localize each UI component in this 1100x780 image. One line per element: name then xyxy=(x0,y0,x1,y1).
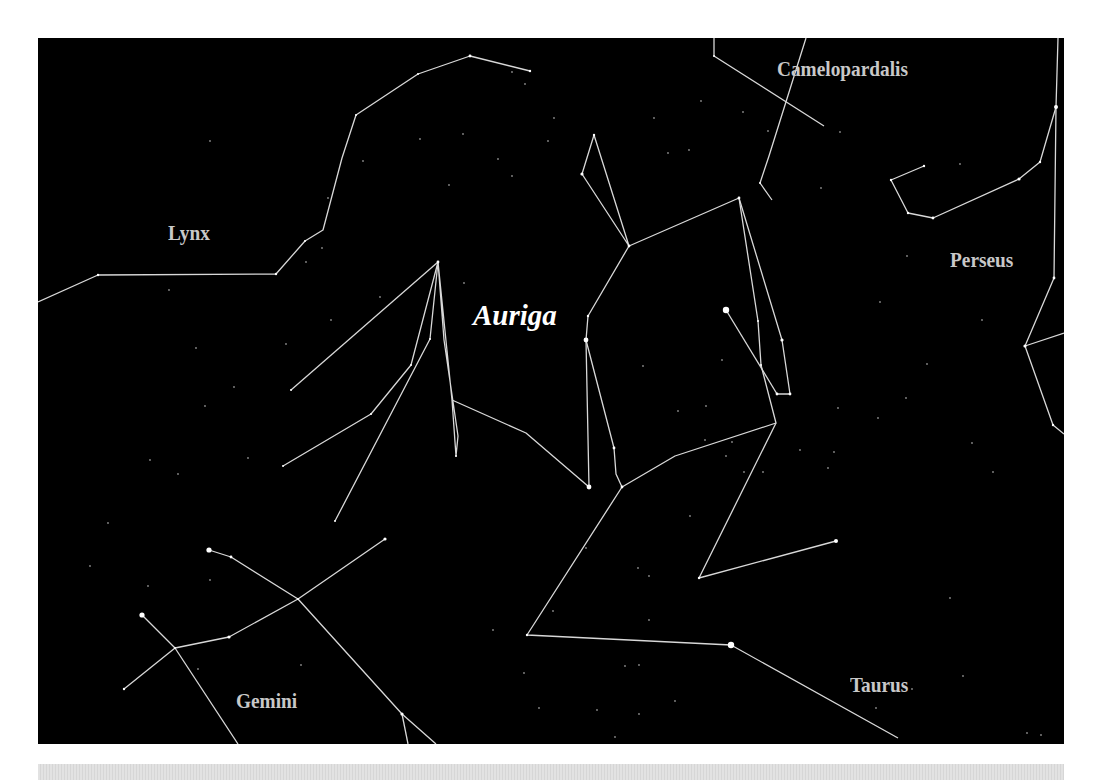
field-star xyxy=(877,417,879,419)
field-star xyxy=(204,405,206,407)
constellation-line xyxy=(291,262,438,390)
constellation-line xyxy=(175,648,238,744)
star xyxy=(437,261,440,264)
star xyxy=(628,245,631,248)
constellation-line xyxy=(38,56,530,302)
star xyxy=(417,73,419,75)
field-star xyxy=(233,386,235,388)
field-star xyxy=(731,441,733,443)
field-star xyxy=(1040,734,1042,736)
constellation-line xyxy=(891,38,1058,218)
field-star xyxy=(327,197,329,199)
star xyxy=(780,338,783,341)
field-star xyxy=(959,163,961,165)
star xyxy=(834,539,838,543)
star xyxy=(383,537,386,540)
field-star xyxy=(905,397,907,399)
star xyxy=(529,70,531,72)
star xyxy=(760,364,762,366)
star xyxy=(334,520,336,522)
field-star xyxy=(195,347,197,349)
star xyxy=(290,389,292,391)
field-star xyxy=(688,149,690,151)
field-star xyxy=(614,736,616,738)
star xyxy=(469,55,472,58)
star xyxy=(776,393,779,396)
field-star xyxy=(492,629,494,631)
field-star xyxy=(674,700,676,702)
star xyxy=(890,179,892,181)
star xyxy=(123,688,125,690)
star xyxy=(713,55,715,57)
constellation-line xyxy=(714,38,824,126)
constellation-line xyxy=(124,648,175,689)
constellation-line xyxy=(527,487,898,738)
constellation-line xyxy=(283,262,438,466)
field-star xyxy=(837,407,839,409)
star xyxy=(584,338,589,343)
field-star xyxy=(177,473,179,475)
field-star xyxy=(677,410,679,412)
star xyxy=(932,217,935,220)
bottom-divider-strip xyxy=(38,764,1064,780)
label-camelopardalis: Camelopardalis xyxy=(777,59,908,80)
field-star xyxy=(667,152,669,154)
field-star xyxy=(689,515,691,517)
star xyxy=(297,598,299,600)
star xyxy=(410,364,412,366)
star xyxy=(230,556,233,559)
star xyxy=(97,274,99,276)
constellation-line xyxy=(452,400,589,487)
star xyxy=(621,486,624,489)
star xyxy=(526,634,528,636)
constellation-line xyxy=(739,198,790,394)
star xyxy=(757,320,759,322)
field-star xyxy=(839,131,841,133)
field-star xyxy=(762,471,764,473)
star xyxy=(698,577,700,579)
star xyxy=(1053,277,1056,280)
field-star xyxy=(820,187,822,189)
star xyxy=(723,307,729,313)
field-star xyxy=(725,455,727,457)
star xyxy=(907,212,909,214)
field-star xyxy=(585,547,587,549)
field-star xyxy=(462,133,464,135)
field-star xyxy=(285,343,287,345)
field-star xyxy=(524,83,526,85)
field-star xyxy=(971,442,973,444)
constellation-map xyxy=(38,38,1064,744)
star xyxy=(1023,344,1026,347)
star xyxy=(174,647,176,649)
field-star xyxy=(637,567,639,569)
field-star xyxy=(638,713,640,715)
field-star xyxy=(209,579,211,581)
field-star xyxy=(300,664,302,666)
field-star xyxy=(926,363,928,365)
label-auriga: Auriga xyxy=(473,301,557,330)
star xyxy=(587,485,592,490)
star xyxy=(400,712,403,715)
star xyxy=(370,413,372,415)
field-star xyxy=(827,467,829,469)
field-star xyxy=(949,597,951,599)
constellation-line xyxy=(1025,107,1064,346)
star xyxy=(580,172,583,175)
field-star xyxy=(743,471,745,473)
field-star xyxy=(962,675,964,677)
star xyxy=(139,612,144,617)
constellation-line xyxy=(335,262,438,521)
field-star xyxy=(538,707,540,709)
field-star xyxy=(981,319,983,321)
star xyxy=(593,134,595,136)
field-star xyxy=(1026,732,1028,734)
star xyxy=(587,315,589,317)
constellation-stars xyxy=(97,55,1058,716)
field-star xyxy=(523,672,525,674)
constellation-line xyxy=(438,262,458,456)
field-star xyxy=(799,449,801,451)
field-star xyxy=(700,100,702,102)
field-star xyxy=(879,301,881,303)
label-lynx: Lynx xyxy=(168,223,210,244)
field-star xyxy=(448,184,450,186)
